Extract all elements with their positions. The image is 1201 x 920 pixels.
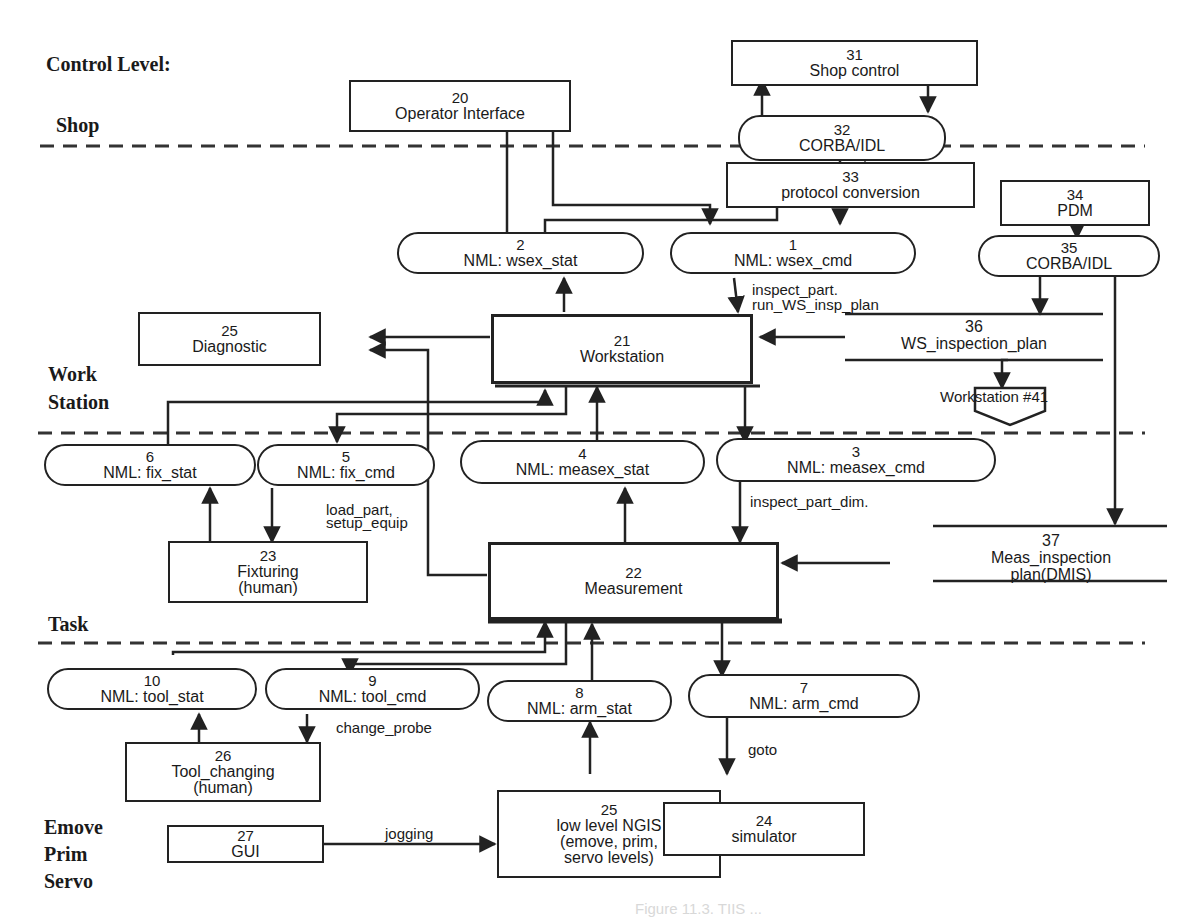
node-number: 24 <box>756 813 773 829</box>
node-number: 31 <box>846 47 863 63</box>
node-26-tool-changing: 26 Tool_changing (human) <box>125 742 321 802</box>
node-1-wsex-cmd: 1 NML: wsex_cmd <box>670 232 916 274</box>
node-10-tool-stat: 10 NML: tool_stat <box>47 668 257 710</box>
node-label-2: (human) <box>238 580 298 596</box>
node-label: low level NGIS <box>557 818 662 834</box>
node-number: 26 <box>215 748 232 764</box>
node-label: CORBA/IDL <box>799 138 885 154</box>
node-label: Meas_inspection <box>935 549 1167 566</box>
node-label: Measurement <box>585 581 683 597</box>
node-21-workstation: 21 Workstation <box>491 314 753 384</box>
level-label-prim: Prim <box>44 842 87 867</box>
node-number: 34 <box>1067 187 1084 203</box>
level-label-shop: Shop <box>56 113 99 138</box>
node-6-fix-stat: 6 NML: fix_stat <box>44 444 256 486</box>
node-35-corba-idl: 35 CORBA/IDL <box>978 235 1160 277</box>
level-label-servo: Servo <box>44 869 93 894</box>
node-34-pdm: 34 PDM <box>1000 180 1150 226</box>
node-label: CORBA/IDL <box>1026 256 1112 272</box>
node-label: NML: tool_stat <box>100 689 203 705</box>
datastore-37-meas-inspection-plan: 37 Meas_inspection plan(DMIS) <box>935 532 1167 583</box>
node-number: 32 <box>834 122 851 138</box>
node-number: 37 <box>935 532 1167 549</box>
node-label: Workstation <box>580 349 664 365</box>
node-31-shop-control: 31 Shop control <box>731 40 978 86</box>
node-label: PDM <box>1057 203 1093 219</box>
node-number: 27 <box>237 828 254 844</box>
node-label-2: plan(DMIS) <box>935 566 1167 583</box>
figure-caption: Figure 11.3. TIIS ... <box>635 900 762 917</box>
level-label-workstation-2: Station <box>48 390 109 415</box>
node-5-fix-cmd: 5 NML: fix_cmd <box>257 444 435 486</box>
node-number: 1 <box>789 237 797 253</box>
node-label: NML: wsex_stat <box>464 253 578 269</box>
node-number: 22 <box>625 565 642 581</box>
node-number: 8 <box>575 685 583 701</box>
node-23-fixturing: 23 Fixturing (human) <box>168 541 368 603</box>
node-label: simulator <box>732 829 797 845</box>
node-label-3: servo levels) <box>564 850 654 866</box>
node-number: 20 <box>452 90 469 106</box>
node-number: 7 <box>800 680 808 696</box>
datastore-36-ws-inspection-plan: 36 WS_inspection_plan <box>845 318 1103 352</box>
node-number: 35 <box>1061 240 1078 256</box>
edge-label-change-probe: change_probe <box>336 720 432 735</box>
edge-label-inspect-part: inspect_part. <box>752 282 838 297</box>
level-label-emove: Emove <box>44 815 103 840</box>
node-number: 4 <box>578 446 586 462</box>
node-2-wsex-stat: 2 NML: wsex_stat <box>397 232 644 274</box>
node-22-measurement: 22 Measurement <box>488 542 779 620</box>
node-label-2: (emove, prim, <box>560 834 658 850</box>
edge-label-run-ws-insp-plan: run_WS_insp_plan <box>752 297 879 312</box>
node-27-gui: 27 GUI <box>167 825 324 863</box>
node-label: protocol conversion <box>781 185 920 201</box>
node-label: Tool_changing <box>171 764 274 780</box>
node-label: Fixturing <box>237 564 298 580</box>
node-label: NML: tool_cmd <box>319 689 427 705</box>
node-8-arm-stat: 8 NML: arm_stat <box>487 680 672 722</box>
node-label: NML: measex_stat <box>516 462 649 478</box>
node-label: NML: wsex_cmd <box>734 253 852 269</box>
node-number: 6 <box>146 449 154 465</box>
node-label: WS_inspection_plan <box>845 335 1103 352</box>
node-4-measex-stat: 4 NML: measex_stat <box>460 440 705 484</box>
edge-label-setup-equip: setup_equip <box>326 515 408 530</box>
node-9-tool-cmd: 9 NML: tool_cmd <box>265 668 480 710</box>
offpage-workstation-41: Workstation #41 <box>940 389 1048 404</box>
node-label: Operator Interface <box>395 106 525 122</box>
node-32-corba-idl: 32 CORBA/IDL <box>738 115 946 161</box>
node-label: NML: measex_cmd <box>787 460 925 476</box>
node-number: 36 <box>845 318 1103 335</box>
control-architecture-diagram: Control Level: Shop Work Station Task Em… <box>0 0 1201 920</box>
node-number: 25 <box>601 802 618 818</box>
node-label-2: (human) <box>193 780 253 796</box>
node-label: Diagnostic <box>192 339 267 355</box>
node-label: NML: fix_cmd <box>297 465 395 481</box>
node-number: 5 <box>342 449 350 465</box>
node-3-measex-cmd: 3 NML: measex_cmd <box>716 438 996 482</box>
node-number: 2 <box>516 237 524 253</box>
node-24-simulator: 24 simulator <box>663 802 865 856</box>
node-label: NML: arm_cmd <box>749 696 858 712</box>
node-number: 9 <box>368 673 376 689</box>
level-label-workstation-1: Work <box>48 362 97 387</box>
node-label: NML: arm_stat <box>527 701 632 717</box>
node-label: GUI <box>231 844 259 860</box>
node-number: 3 <box>852 444 860 460</box>
node-number: 23 <box>260 548 277 564</box>
node-25-diagnostic: 25 Diagnostic <box>138 312 321 366</box>
node-label: Shop control <box>810 63 900 79</box>
edge-label-goto: goto <box>748 742 777 757</box>
node-20-operator-interface: 20 Operator Interface <box>349 80 571 132</box>
node-7-arm-cmd: 7 NML: arm_cmd <box>688 674 920 718</box>
node-number: 25 <box>221 323 238 339</box>
node-number: 21 <box>614 333 631 349</box>
node-number: 33 <box>842 169 859 185</box>
node-label: NML: fix_stat <box>103 465 196 481</box>
level-label-task: Task <box>48 612 88 637</box>
control-level-title: Control Level: <box>46 52 171 77</box>
edge-label-inspect-part-dim: inspect_part_dim. <box>750 494 868 509</box>
node-33-protocol-conversion: 33 protocol conversion <box>726 162 975 208</box>
edge-label-jogging: jogging <box>385 826 433 841</box>
node-number: 10 <box>144 673 161 689</box>
